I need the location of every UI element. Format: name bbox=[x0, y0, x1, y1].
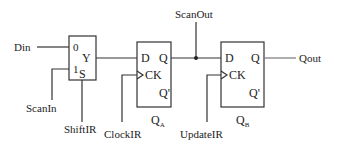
updateir-wire bbox=[207, 75, 221, 122]
clockir-label: ClockIR bbox=[104, 128, 142, 140]
ff-b-clock-triangle-icon bbox=[221, 71, 227, 79]
ff-b-q-label: Q bbox=[251, 51, 260, 65]
qout-label: Qout bbox=[299, 52, 321, 64]
ff-a-q-label: Q bbox=[159, 51, 168, 65]
ff-b-ck-label: CK bbox=[229, 68, 246, 82]
updateir-label: UpdateIR bbox=[180, 128, 223, 140]
scanin-label: ScanIn bbox=[26, 102, 57, 114]
ff-b-d-label: D bbox=[225, 51, 234, 65]
mux-input0-label: 0 bbox=[73, 41, 79, 53]
clockir-wire bbox=[122, 75, 137, 122]
shiftir-label: ShiftIR bbox=[64, 123, 97, 135]
mux-select-label: S bbox=[79, 67, 86, 81]
ff-a-qbar-label: Q' bbox=[159, 86, 170, 100]
junction-dot bbox=[194, 56, 198, 60]
scanout-label: ScanOut bbox=[175, 8, 213, 20]
scanin-wire bbox=[52, 69, 69, 100]
ff-a-clock-triangle-icon bbox=[137, 71, 143, 79]
din-label: Din bbox=[14, 41, 31, 53]
mux-input1-label: 1 bbox=[73, 63, 79, 75]
mux-output-label: Y bbox=[82, 51, 91, 65]
ff-a-name-label: QA bbox=[151, 113, 165, 129]
ff-a-d-label: D bbox=[141, 51, 150, 65]
ff-b-qbar-label: Q' bbox=[249, 86, 260, 100]
ff-a-ck-label: CK bbox=[145, 68, 162, 82]
ff-b-name-label: QB bbox=[236, 113, 250, 129]
boundary-scan-diagram: 0 1 Y S D Q CK Q' QA D Q CK Q' QB Din Sc… bbox=[0, 0, 337, 148]
